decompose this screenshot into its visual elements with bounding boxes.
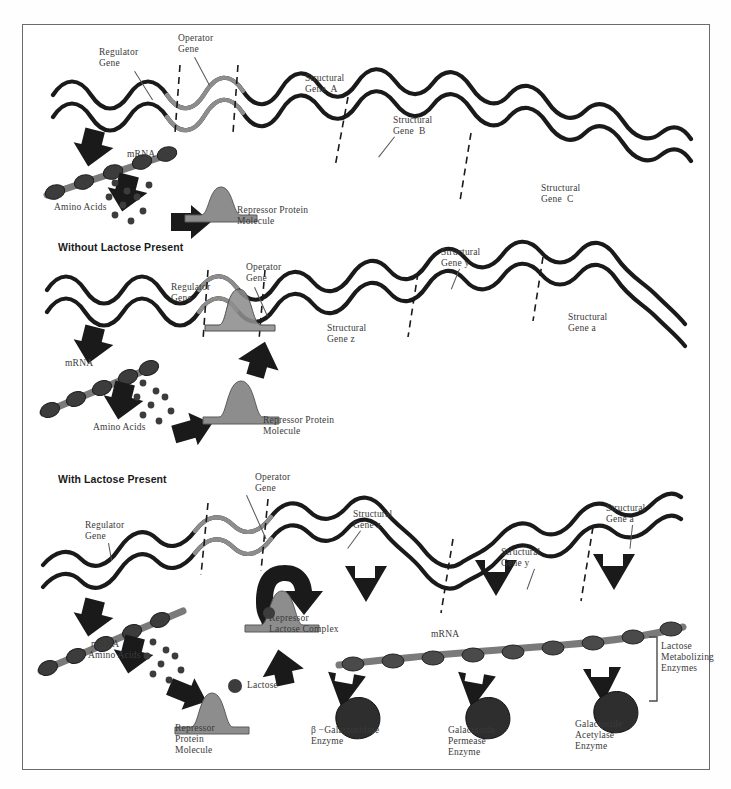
label-operator-gene-bottom: Operator Gene	[255, 472, 317, 494]
figure-page: Regulator Gene Operator Gene Structural …	[0, 0, 731, 789]
label-enzyme-permease: Galactoside Permease Enzyme	[448, 725, 534, 758]
label-structural-gene-a-bottom: Structural Gene a	[606, 503, 668, 525]
label-structural-gene-y-bottom: Structural Gene y	[501, 547, 563, 569]
label-structural-gene-z-bottom: Structural Gene z	[353, 509, 415, 531]
label-repressor-lactose-complex: Repressor Lactose Complex	[269, 613, 365, 635]
arrows-to-enzymes-bottom	[322, 554, 635, 712]
bracket-lactose-enzymes	[649, 637, 657, 701]
lactose-molecule	[228, 679, 242, 693]
label-enzyme-galactosidase: β −Galactosidase Enzyme	[311, 725, 415, 747]
label-amino-acids-bottom: Amino Acids	[88, 650, 141, 661]
heading-with-lactose: With Lactose Present	[58, 473, 167, 485]
label-mrna-bottom-right: mRNA	[431, 629, 459, 640]
mrna-strand-bottom-right	[339, 622, 683, 671]
label-regulator-gene-bottom: Regulator Gene	[85, 520, 147, 542]
label-lactose: Lactose	[247, 680, 278, 691]
label-mrna-bottom-left: mRNA	[91, 639, 119, 650]
label-enzyme-acetylase: Galactoside Acetylase Enzyme	[575, 719, 661, 752]
label-lactose-metabolizing-enzymes: Lactose Metabolizing Enzymes	[661, 641, 725, 674]
figure-frame: Regulator Gene Operator Gene Structural …	[22, 24, 710, 770]
amino-acid-dots-bottom	[144, 639, 185, 684]
label-repressor-protein-bottom: Repressor Protein Molecule	[175, 723, 245, 756]
panel-bottom: With Lactose Present Regulator Gene Oper…	[23, 25, 709, 769]
